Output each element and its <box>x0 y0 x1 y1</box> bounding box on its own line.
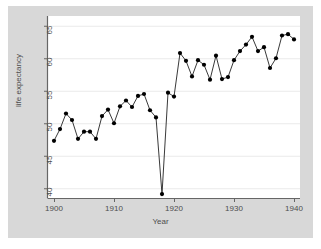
data-point <box>280 33 284 37</box>
data-point <box>238 49 242 53</box>
data-point <box>112 121 116 125</box>
x-tick-label-1900: 1900 <box>43 204 65 213</box>
data-point <box>136 94 140 98</box>
y-tick-label-50: 50 <box>45 123 54 132</box>
data-point <box>70 118 74 122</box>
data-point <box>178 51 182 55</box>
x-tick-label-1910: 1910 <box>103 204 125 213</box>
y-tick-label-65: 65 <box>45 25 54 34</box>
data-point <box>94 137 98 141</box>
data-point <box>76 137 80 141</box>
data-point <box>196 58 200 62</box>
y-tick-label-45: 45 <box>45 155 54 164</box>
data-point <box>64 111 68 115</box>
data-point <box>184 59 188 63</box>
data-point <box>286 32 290 36</box>
series-canvas <box>48 16 300 198</box>
data-point <box>202 63 206 67</box>
chart-figure: 404550556065 19001910192019301940 life e… <box>0 0 321 249</box>
x-axis-title: Year <box>0 217 321 226</box>
y-tick-label-60: 60 <box>45 58 54 67</box>
data-point <box>100 114 104 118</box>
data-point <box>244 43 248 47</box>
data-point <box>166 91 170 95</box>
x-tick-label-1940: 1940 <box>283 204 305 213</box>
data-point <box>292 37 296 41</box>
data-point <box>124 98 128 102</box>
data-point <box>88 130 92 134</box>
data-point <box>106 108 110 112</box>
data-point <box>262 45 266 49</box>
data-point <box>160 192 164 196</box>
y-axis-title: life expectancy <box>14 54 23 107</box>
series-line-life-expectancy <box>54 34 294 194</box>
data-point <box>256 49 260 53</box>
data-point <box>232 58 236 62</box>
data-point <box>226 75 230 79</box>
x-tick-label-1920: 1920 <box>163 204 185 213</box>
data-point <box>52 139 56 143</box>
data-point <box>214 54 218 58</box>
y-tick-label-55: 55 <box>45 90 54 99</box>
data-point <box>172 95 176 99</box>
y-tick-label-40: 40 <box>45 188 54 197</box>
data-point <box>190 74 194 78</box>
data-point <box>82 130 86 134</box>
data-point <box>154 115 158 119</box>
x-tick-label-1930: 1930 <box>223 204 245 213</box>
data-point <box>148 108 152 112</box>
data-point <box>220 77 224 81</box>
plot-area <box>48 16 300 198</box>
data-point <box>208 78 212 82</box>
data-point <box>130 105 134 109</box>
data-point <box>250 35 254 39</box>
data-point <box>118 104 122 108</box>
data-point <box>274 56 278 60</box>
data-point <box>142 92 146 96</box>
data-point <box>268 66 272 70</box>
data-point <box>58 127 62 131</box>
